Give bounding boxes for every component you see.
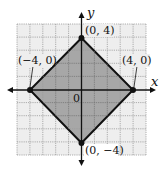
- vertex-top: [79, 35, 85, 41]
- y-axis-label: y: [86, 5, 95, 20]
- vertex-left: [27, 87, 33, 93]
- coordinate-plane: (0, 4) (4, 0) (0, −4) (−4, 0) 0 y x: [0, 0, 164, 172]
- label-vertex-right: (4, 0): [122, 54, 152, 67]
- y-axis-up-arrow-icon: [79, 12, 85, 18]
- x-axis-label: x: [151, 74, 159, 89]
- label-vertex-left: (−4, 0): [18, 54, 57, 67]
- origin-label: 0: [73, 92, 80, 105]
- label-vertex-bottom: (0, −4): [85, 144, 124, 157]
- x-axis-left-arrow-icon: [7, 87, 13, 93]
- y-axis-down-arrow-icon: [79, 160, 85, 166]
- label-vertex-top: (0, 4): [85, 24, 115, 37]
- vertex-bottom: [79, 140, 85, 146]
- vertex-right: [130, 87, 136, 93]
